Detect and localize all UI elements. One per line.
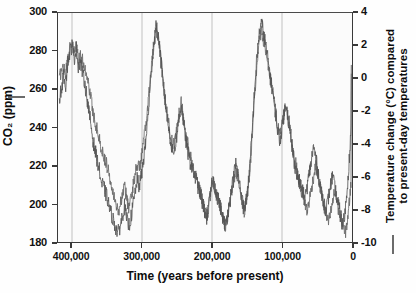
series-co2: [59, 25, 351, 238]
x-tick: [141, 243, 142, 248]
y-tick-left: [52, 165, 57, 166]
y-tick-label-left: 180: [11, 236, 47, 248]
x-tick: [282, 243, 283, 248]
y-tick-right: [353, 44, 358, 45]
x-tick-label: 100,000: [243, 250, 323, 262]
y-axis-left-title-text: CO₂ (ppm): [1, 86, 15, 146]
series-temperature: [59, 19, 351, 237]
y-tick-right: [353, 209, 358, 210]
y-axis-right-title-line2: to present-day temperatures: [397, 48, 409, 203]
y-tick-label-right: -2: [361, 104, 387, 116]
y-tick-right: [353, 176, 358, 177]
x-tick: [352, 243, 353, 248]
x-tick-label: 0: [313, 250, 393, 262]
y-tick-label-left: 220: [11, 159, 47, 171]
y-tick-right: [353, 143, 358, 144]
y-tick-label-left: 240: [11, 121, 47, 133]
y-tick-label-right: 4: [361, 5, 387, 17]
y-tick-label-left: 200: [11, 198, 47, 210]
y-tick-left: [52, 242, 57, 243]
y-tick-label-right: -4: [361, 137, 387, 149]
y-tick-label-right: -8: [361, 203, 387, 215]
y-tick-left: [52, 127, 57, 128]
y-tick-label-left: 280: [11, 44, 47, 56]
x-tick-label: 200,000: [172, 250, 252, 262]
y-tick-label-left: 300: [11, 5, 47, 17]
y-tick-label-left: 260: [11, 82, 47, 94]
y-axis-left-title: CO₂ (ppm): [0, 0, 18, 231]
y-tick-label-right: 0: [361, 71, 387, 83]
y-tick-right: [353, 110, 358, 111]
y-tick-right: [353, 242, 358, 243]
x-axis-title: Time (years before present): [57, 269, 353, 283]
x-tick: [211, 243, 212, 248]
y-tick-left: [52, 11, 57, 12]
y-axis-right-title-line1: Temperature change (°C) compared: [384, 29, 396, 223]
x-tick-label: 400,000: [31, 250, 111, 262]
y-tick-label-right: -6: [361, 170, 387, 182]
data-series-group: [59, 19, 351, 238]
y-tick-right: [353, 11, 358, 12]
plot-area: [57, 12, 353, 243]
y-tick-left: [52, 204, 57, 205]
figure-container: CO₂ (ppm) Temperature change (°C) compar…: [0, 0, 416, 293]
y-tick-label-right: -10: [361, 236, 387, 248]
chart-svg: [58, 13, 352, 242]
y-tick-left: [52, 50, 57, 51]
y-tick-right: [353, 77, 358, 78]
y-tick-label-right: 2: [361, 38, 387, 50]
y-tick-left: [52, 88, 57, 89]
x-tick-label: 300,000: [102, 250, 182, 262]
x-tick: [70, 243, 71, 248]
